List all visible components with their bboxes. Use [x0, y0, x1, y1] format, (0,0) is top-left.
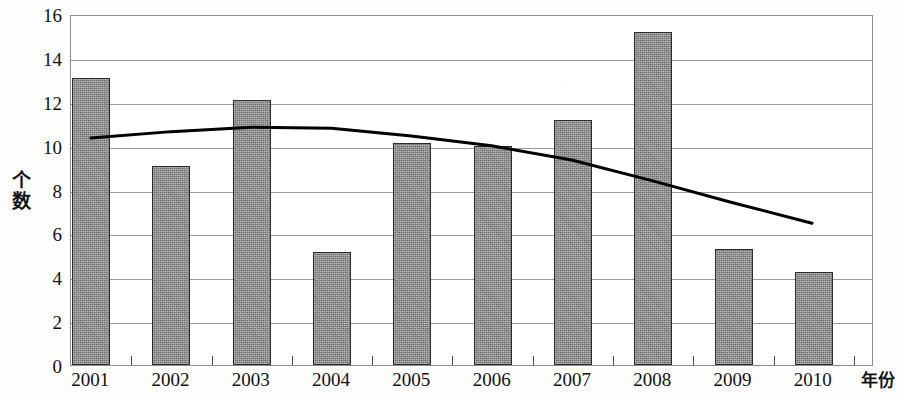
- x-axis-tick-label: 2005: [376, 370, 446, 390]
- x-axis-tick-labels: 2001200220032004200520062007200820092010: [0, 0, 904, 394]
- x-axis-tick-label: 2010: [778, 370, 848, 390]
- bar-chart: 个数 1614121086420 20012002200320042005200…: [0, 0, 904, 394]
- x-axis-tick-label: 2001: [55, 370, 125, 390]
- x-axis-tick-label: 2004: [296, 370, 366, 390]
- x-axis-tick-label: 2002: [135, 370, 205, 390]
- x-axis-tick-label: 2003: [216, 370, 286, 390]
- x-axis-tick-label: 2007: [537, 370, 607, 390]
- x-axis-title: 年份: [861, 366, 895, 391]
- x-axis-tick-label: 2009: [698, 370, 768, 390]
- x-axis-tick-label: 2008: [617, 370, 687, 390]
- x-axis-tick-label: 2006: [457, 370, 527, 390]
